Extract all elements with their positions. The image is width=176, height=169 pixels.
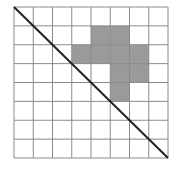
shaded-cell (130, 45, 149, 64)
shaded-cell (110, 83, 129, 102)
shaded-cell (72, 45, 91, 64)
shaded-cell (110, 45, 129, 64)
shaded-cell (110, 64, 129, 83)
shaded-cell (91, 26, 110, 45)
grid-diagram (0, 0, 176, 169)
shaded-cell (110, 26, 129, 45)
shaded-cell (130, 64, 149, 83)
shaded-cell (91, 45, 110, 64)
